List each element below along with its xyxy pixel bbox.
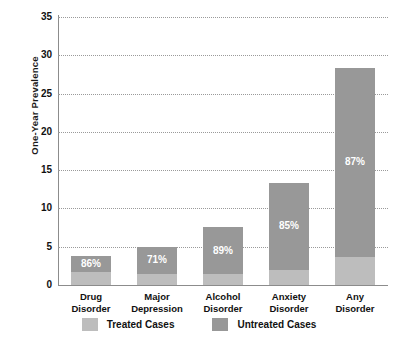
bar-stack[interactable]: 86% xyxy=(71,256,111,285)
x-axis-label-line: Disorder xyxy=(312,303,398,315)
legend-item-treated[interactable]: Treated Cases xyxy=(82,318,175,331)
plot-area: 86%71%89%85%87% xyxy=(58,17,388,285)
y-tick-label-30: 30 xyxy=(26,50,52,60)
legend-item-untreated[interactable]: Untreated Cases xyxy=(212,318,316,331)
bar-value-label: 87% xyxy=(335,157,375,167)
chart-legend: Treated CasesUntreated Cases xyxy=(0,318,398,331)
bar-segment-untreated[interactable]: 89% xyxy=(203,227,243,274)
bar-segment-treated[interactable] xyxy=(335,257,375,285)
y-tick-label-15: 15 xyxy=(26,165,52,175)
x-axis-line xyxy=(58,285,388,286)
legend-swatch-untreated-icon xyxy=(212,318,228,331)
bar-segment-untreated[interactable]: 86% xyxy=(71,256,111,272)
x-axis-label-line: Any xyxy=(312,291,398,303)
bar-value-label: 86% xyxy=(71,259,111,269)
bar-stack[interactable]: 85% xyxy=(269,183,309,285)
y-tick-label-10: 10 xyxy=(26,203,52,213)
prevalence-bar-chart: One-Year Prevalence 86%71%89%85%87% 3530… xyxy=(0,0,398,341)
bar-segment-treated[interactable] xyxy=(203,274,243,285)
y-tick-label-25: 25 xyxy=(26,89,52,99)
gridline-35 xyxy=(58,17,388,18)
bar-value-label: 89% xyxy=(203,246,243,256)
bar-segment-treated[interactable] xyxy=(71,272,111,285)
bar-stack[interactable]: 71% xyxy=(137,247,177,285)
y-tick-label-5: 5 xyxy=(26,242,52,252)
bar-segment-untreated[interactable]: 71% xyxy=(137,247,177,274)
legend-label: Treated Cases xyxy=(107,320,175,330)
x-axis-label-any-disorder: AnyDisorder xyxy=(312,291,398,314)
legend-label: Untreated Cases xyxy=(237,320,316,330)
bar-segment-treated[interactable] xyxy=(137,274,177,285)
bar-value-label: 85% xyxy=(269,221,309,231)
bar-stack[interactable]: 89% xyxy=(203,227,243,285)
y-tick-label-35: 35 xyxy=(26,12,52,22)
y-tick-label-0: 0 xyxy=(26,280,52,290)
gridline-30 xyxy=(58,55,388,56)
bar-segment-treated[interactable] xyxy=(269,270,309,285)
y-tick-label-20: 20 xyxy=(26,127,52,137)
bar-segment-untreated[interactable]: 87% xyxy=(335,68,375,256)
bar-segment-untreated[interactable]: 85% xyxy=(269,183,309,270)
bar-value-label: 71% xyxy=(137,255,177,265)
legend-swatch-treated-icon xyxy=(82,318,98,331)
bar-stack[interactable]: 87% xyxy=(335,68,375,285)
